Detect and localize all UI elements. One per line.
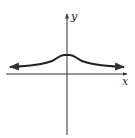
- y-axis-label: y: [70, 10, 78, 23]
- function-graph: y x: [0, 0, 135, 138]
- x-axis-label: x: [122, 75, 129, 88]
